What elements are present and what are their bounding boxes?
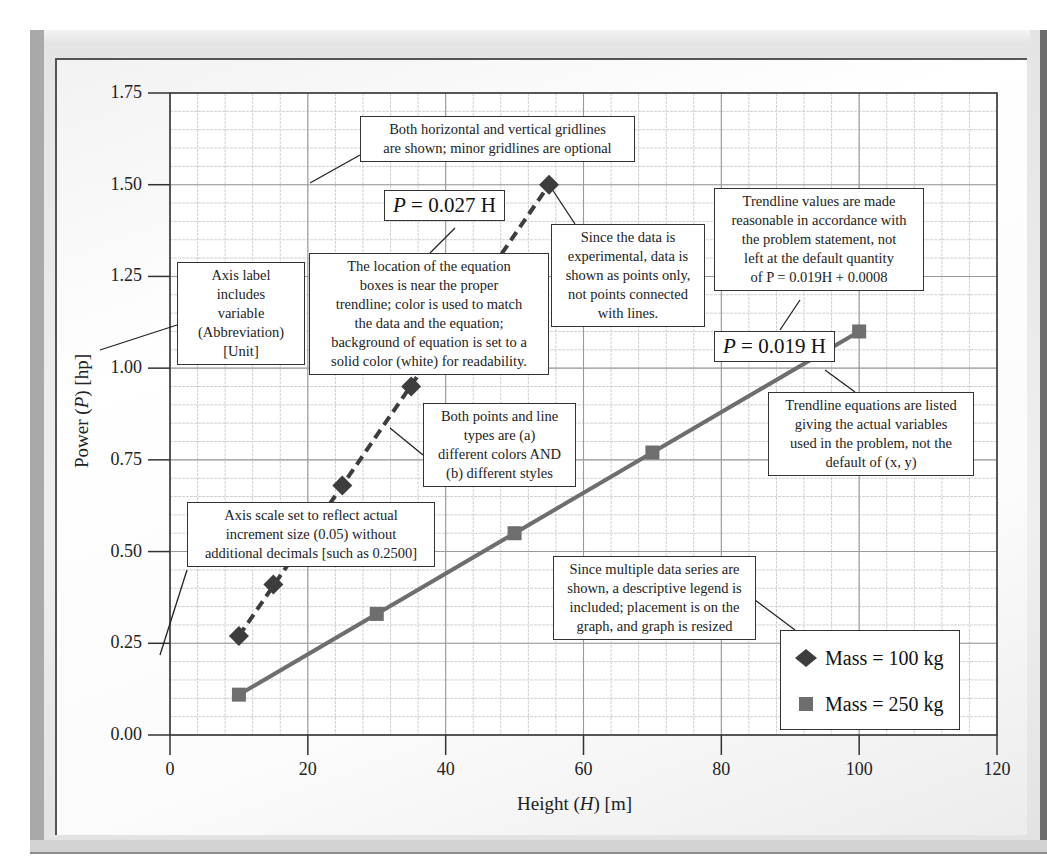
x-tick-label: 100 [834, 759, 884, 780]
callout-line: not points connected [558, 285, 698, 304]
callout-line: boxes is near the proper [316, 276, 542, 295]
y-tick-label: 0.25 [82, 632, 142, 653]
x-tick-label: 120 [972, 759, 1022, 780]
square-marker [852, 324, 866, 338]
callout-equation-location: The location of the equation boxes is ne… [309, 253, 549, 375]
legend-item-250kg: Mass = 250 kg [793, 689, 944, 719]
y-tick-label: 1.25 [82, 265, 142, 286]
callout-styles: Both points and line types are (a) diffe… [423, 403, 576, 487]
y-title-prefix: Power ( [71, 408, 92, 468]
x-title-variable: H [580, 793, 594, 814]
y-tick-label: 0.50 [82, 541, 142, 562]
equation-text: = 0.019 H [736, 334, 826, 358]
callout-line: Axis scale set to reflect actual [194, 506, 428, 525]
callout-line: Both points and line [430, 407, 569, 426]
callout-line: included; placement is on the [560, 598, 749, 617]
callout-line: variable [184, 304, 298, 323]
callout-line: (Abbreviation) [184, 323, 298, 342]
callout-line: left at the default quantity [721, 249, 917, 268]
legend-item-100kg: Mass = 100 kg [793, 643, 944, 673]
callout-line: the problem statement, not [721, 230, 917, 249]
x-tick-label: 0 [145, 759, 195, 780]
callout-line: graph, and graph is resized [560, 617, 749, 636]
callout-line: Trendline equations are listed [775, 396, 967, 415]
callout-line: includes [184, 285, 298, 304]
square-icon [793, 693, 819, 715]
callout-line: solid color (white) for readability. [316, 352, 542, 371]
callout-line: Both horizontal and vertical gridlines [367, 120, 628, 139]
callout-trendline-variables: Trendline equations are listed giving th… [768, 392, 974, 476]
callout-line: giving the actual variables [775, 415, 967, 434]
callout-line: different colors AND [430, 445, 569, 464]
x-title-suffix: ) [m] [594, 793, 633, 814]
square-marker [645, 446, 659, 460]
x-tick-label: 20 [283, 759, 333, 780]
callout-line: The location of the equation [316, 257, 542, 276]
callout-line: types are (a) [430, 426, 569, 445]
callout-line: [Unit] [184, 342, 298, 361]
callout-axis-scale: Axis scale set to reflect actual increme… [187, 502, 435, 567]
equation-variable: P [393, 193, 406, 217]
callout-line: reasonable in accordance with [721, 211, 917, 230]
square-marker [370, 607, 384, 621]
callout-line: are shown; minor gridlines are optional [367, 139, 628, 158]
callout-line: Axis label [184, 266, 298, 285]
callout-line: background of equation is set to a [316, 333, 542, 352]
callout-line: Since multiple data series are [560, 560, 749, 579]
callout-line: default of (x, y) [775, 453, 967, 472]
x-title-prefix: Height ( [517, 793, 580, 814]
y-tick-label: 1.75 [82, 82, 142, 103]
equation-box-250kg: P = 0.019 H [714, 331, 835, 362]
callout-line: Trendline values are made [721, 192, 917, 211]
y-title-variable: P [71, 397, 92, 409]
callout-line: shown as points only, [558, 266, 698, 285]
callout-gridlines: Both horizontal and vertical gridlines a… [360, 116, 635, 162]
callout-axis-label: Axis label includes variable (Abbreviati… [177, 262, 305, 365]
chart-legend: Mass = 100 kg Mass = 250 kg [780, 630, 960, 730]
callout-line: shown, a descriptive legend is [560, 579, 749, 598]
equation-variable: P [723, 334, 736, 358]
callout-experimental: Since the data is experimental, data is … [551, 224, 705, 327]
callout-line: Since the data is [558, 228, 698, 247]
callout-line: additional decimals [such as 0.2500] [194, 544, 428, 563]
square-marker [232, 688, 246, 702]
callout-legend-note: Since multiple data series are shown, a … [553, 556, 756, 640]
callout-line: used in the problem, not the [775, 434, 967, 453]
callout-line: of P = 0.019H + 0.0008 [721, 268, 917, 287]
x-tick-label: 60 [559, 759, 609, 780]
callout-trendline-values: Trendline values are made reasonable in … [714, 188, 924, 291]
y-tick-label: 1.50 [82, 174, 142, 195]
callout-line: increment size (0.05) without [194, 525, 428, 544]
x-axis-title: Height (H) [m] [517, 793, 632, 815]
legend-label: Mass = 100 kg [825, 647, 944, 670]
y-title-suffix: ) [hp] [71, 354, 92, 397]
y-tick-label: 0.00 [82, 724, 142, 745]
callout-line: experimental, data is [558, 247, 698, 266]
legend-label: Mass = 250 kg [825, 693, 944, 716]
callout-line: the data and the equation; [316, 314, 542, 333]
callout-line: with lines. [558, 304, 698, 323]
equation-box-100kg: P = 0.027 H [384, 190, 505, 221]
y-axis-title: Power (P) [hp] [71, 321, 93, 501]
x-tick-label: 40 [421, 759, 471, 780]
diamond-icon [793, 647, 819, 669]
callout-line: (b) different styles [430, 464, 569, 483]
x-tick-label: 80 [696, 759, 746, 780]
equation-text: = 0.027 H [406, 193, 496, 217]
square-marker [508, 526, 522, 540]
callout-line: trendline; color is used to match [316, 295, 542, 314]
